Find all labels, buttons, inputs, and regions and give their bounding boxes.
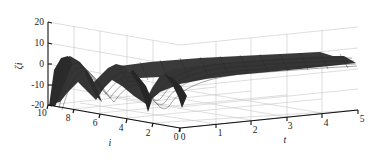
plot-canvas: 20 10 0 -10 -20 ζi 10 8 6 4 2 0 i: [0, 0, 372, 162]
t-tick-4: 4: [324, 118, 329, 128]
t-tick-3: 3: [288, 121, 293, 131]
z-tick-0: 20: [35, 17, 45, 27]
z-tick-2: 0: [39, 59, 44, 69]
z-axis-label: ζi: [13, 62, 25, 69]
z-axis: 20 10 0 -10 -20 ζi: [13, 17, 52, 110]
t-axis-label: t: [284, 134, 287, 145]
i-tick-3: 4: [119, 123, 124, 133]
surface-plot-figure: 20 10 0 -10 -20 ζi 10 8 6 4 2 0 i: [0, 0, 372, 162]
i-tick-4: 2: [146, 128, 151, 138]
i-tick-5: 0: [174, 132, 179, 142]
i-tick-1: 8: [66, 113, 71, 123]
t-tick-0: 0: [181, 132, 186, 142]
t-tick-2: 2: [253, 125, 258, 135]
i-tick-2: 6: [93, 118, 98, 128]
t-tick-1: 1: [218, 128, 223, 138]
i-axis-label: i: [109, 137, 112, 148]
t-tick-5: 5: [360, 114, 365, 124]
i-tick-0: 10: [37, 108, 47, 118]
z-tick-3: -10: [31, 80, 44, 90]
z-tick-1: 10: [35, 38, 45, 48]
